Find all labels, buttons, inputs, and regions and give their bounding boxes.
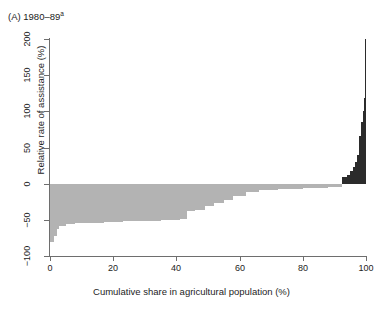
bar	[278, 184, 303, 189]
bar	[246, 184, 259, 193]
bar	[328, 184, 342, 187]
bar	[66, 184, 75, 225]
x-axis-tick	[366, 256, 367, 261]
y-axis-tick-label: 200	[21, 24, 33, 54]
bar	[187, 184, 195, 211]
panel-title-text: (A) 1980–89	[8, 11, 60, 22]
x-axis-tick-label: 0	[37, 263, 63, 273]
bar-series	[50, 39, 366, 256]
y-axis-tick-label: −50	[21, 205, 33, 235]
x-axis-tick	[303, 256, 304, 261]
bar	[205, 184, 214, 206]
bar	[142, 184, 161, 221]
panel-title-footnote-marker: a	[60, 10, 64, 17]
bar	[88, 184, 104, 223]
y-axis-tick	[44, 220, 49, 221]
bar	[259, 184, 278, 191]
y-axis-title: Relative rate of assistance (%)	[35, 25, 47, 195]
bar	[161, 184, 180, 220]
x-axis-tick	[176, 256, 177, 261]
bar	[365, 39, 366, 184]
plot-area	[50, 39, 366, 256]
y-axis-tick-label: 150	[21, 60, 33, 90]
x-axis-tick-label: 100	[353, 263, 379, 273]
bar	[195, 184, 204, 210]
chart-figure: (A) 1980–89a −100−50050100150200 0204060…	[0, 0, 383, 309]
x-axis-title: Cumulative share in agricultural populat…	[0, 286, 383, 297]
x-axis-tick	[240, 256, 241, 261]
bar	[214, 184, 223, 204]
bar	[303, 184, 328, 188]
y-axis-tick-label: 50	[21, 133, 33, 163]
x-axis-tick	[113, 256, 114, 261]
x-axis-tick-label: 20	[100, 263, 126, 273]
y-axis-tick-label: 0	[21, 169, 33, 199]
x-axis-tick-label: 60	[227, 263, 253, 273]
y-axis-tick-label: −100	[21, 241, 33, 271]
x-axis-line	[49, 256, 367, 257]
bar	[104, 184, 123, 222]
y-axis-tick-label: 100	[21, 96, 33, 126]
bar	[123, 184, 142, 222]
bar	[75, 184, 88, 224]
bar	[233, 184, 246, 196]
panel-title: (A) 1980–89a	[8, 8, 64, 22]
y-axis-tick	[44, 256, 49, 257]
bar	[180, 184, 188, 219]
x-axis-tick-label: 40	[163, 263, 189, 273]
x-axis-tick-label: 80	[290, 263, 316, 273]
bar	[224, 184, 233, 200]
x-axis-tick	[50, 256, 51, 261]
